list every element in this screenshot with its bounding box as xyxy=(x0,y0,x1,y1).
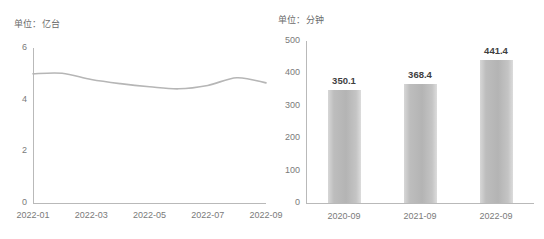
bar-chart-x-axis xyxy=(306,203,534,204)
line-chart-series-svg xyxy=(0,0,272,239)
bar-2022-09 xyxy=(480,60,513,203)
bar-2020-09 xyxy=(328,90,361,203)
bar-chart-y-tick-label: 300 xyxy=(274,100,300,110)
bar-column xyxy=(328,41,361,203)
bar-2021-09 xyxy=(404,84,437,203)
bar-chart-panel: 单位：分钟 0100200300400500350.12020-09368.42… xyxy=(272,0,544,239)
bar-chart-x-tick-label: 2022-09 xyxy=(468,211,524,221)
bar-chart-x-tick-label: 2020-09 xyxy=(316,211,372,221)
dual-chart-figure: 单位：亿台 02462022-012022-032022-052022-0720… xyxy=(0,0,544,239)
bar-chart-y-tick-label: 0 xyxy=(274,197,300,207)
bar-chart-y-tick-label: 100 xyxy=(274,165,300,175)
bar-value-label: 441.4 xyxy=(468,45,524,56)
bar-chart-plot-area: 0100200300400500350.12020-09368.42021-09… xyxy=(272,0,544,239)
bar-column xyxy=(404,41,437,203)
line-chart-panel: 单位：亿台 02462022-012022-032022-052022-0720… xyxy=(0,0,272,239)
bar-chart-y-tick-label: 500 xyxy=(274,35,300,45)
bar-chart-x-tick-label: 2021-09 xyxy=(392,211,448,221)
bar-chart-y-tick-label: 200 xyxy=(274,132,300,142)
bar-column xyxy=(480,41,513,203)
bar-value-label: 368.4 xyxy=(392,69,448,80)
bar-value-label: 350.1 xyxy=(316,75,372,86)
line-chart-plot-area: 02462022-012022-032022-052022-072022-09 xyxy=(0,0,272,239)
bar-chart-y-axis xyxy=(306,41,307,203)
bar-chart-y-tick-label: 400 xyxy=(274,67,300,77)
line-chart-series-line xyxy=(33,73,266,89)
